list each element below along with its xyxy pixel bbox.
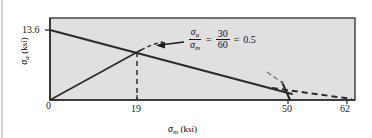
x-tick-label-0: 0 bbox=[46, 101, 51, 111]
stress-ratio-fraction: σa σm bbox=[188, 27, 202, 53]
y-axis-subscript: a bbox=[23, 56, 31, 60]
x-axis-subscript: m bbox=[173, 128, 178, 136]
x-tick-label-62: 62 bbox=[340, 104, 350, 114]
numeric-fraction: 30 60 bbox=[216, 29, 230, 51]
y-axis-symbol: σ bbox=[18, 60, 29, 65]
sigma-m-subscript: m bbox=[195, 44, 200, 52]
stress-ratio-result: 0.5 bbox=[243, 34, 256, 45]
stress-ratio-numerator: σa bbox=[189, 27, 201, 40]
numeric-denominator: 60 bbox=[216, 40, 230, 51]
x-axis-unit: (ksi) bbox=[181, 124, 198, 134]
fatigue-diagram-figure: 13.6 0 19 50 62 σa (ksi) σm (ksi) σa σm … bbox=[0, 0, 372, 138]
stress-ratio-denominator: σm bbox=[188, 40, 202, 52]
equals-sign-2: = bbox=[232, 34, 242, 45]
equals-sign-1: = bbox=[204, 34, 214, 45]
x-tick-label-19: 19 bbox=[131, 104, 141, 114]
sigma-a-subscript: a bbox=[196, 31, 200, 39]
stress-ratio-annotation: σa σm = 30 60 = 0.5 bbox=[188, 27, 256, 53]
x-tick-label-50: 50 bbox=[282, 104, 292, 114]
y-axis-title: σa (ksi) bbox=[13, 21, 31, 81]
x-axis-title: σm (ksi) bbox=[168, 118, 197, 136]
y-axis-unit: (ksi) bbox=[19, 37, 29, 54]
